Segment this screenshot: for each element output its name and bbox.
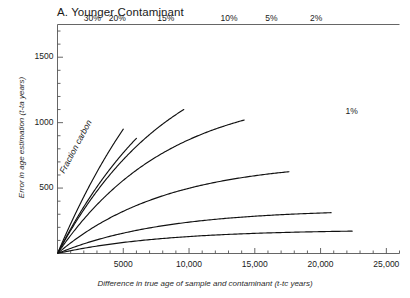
y-tick-label: 500 [22, 182, 54, 192]
x-tick-label: 15,000 [235, 259, 275, 269]
curve-15pct [58, 110, 184, 254]
y-tick-label: 1000 [22, 117, 54, 127]
curve-label-5pct: 5% [265, 13, 277, 23]
curve-label-10pct: 10% [221, 13, 238, 23]
curve-1pct [58, 231, 353, 253]
curve-label-2pct: 2% [310, 13, 322, 23]
x-tick-label: 20,000 [301, 259, 341, 269]
y-tick-label: 1500 [22, 51, 54, 61]
plot-area [0, 0, 410, 298]
curve-label-30pct: 30% [84, 13, 101, 23]
x-tick-label: 5000 [103, 259, 143, 269]
curve-label-15pct: 15% [157, 13, 174, 23]
curve-label-1pct: 1% [345, 106, 357, 116]
x-axis-title: Difference in true age of sample and con… [0, 279, 410, 288]
y-axis-title: Error in age estimation (t-ta years) [17, 38, 26, 238]
x-tick-label: 25,000 [366, 259, 406, 269]
curve-2pct [58, 213, 332, 254]
chart-figure: A. Younger Contaminant Difference in tru… [0, 0, 410, 298]
curve-label-20pct: 20% [109, 13, 126, 23]
x-tick-label: 10,000 [169, 259, 209, 269]
curve-10pct [58, 120, 245, 253]
